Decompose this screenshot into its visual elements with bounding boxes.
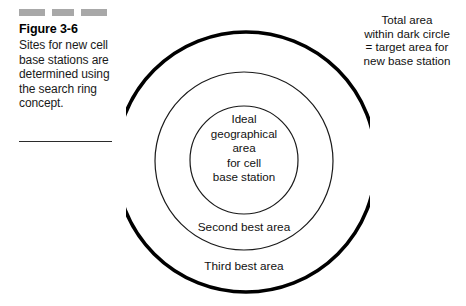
inner-label-line-2: geographical [186, 127, 302, 142]
decorative-mark-2 [52, 9, 74, 16]
inner-label-line-1: Ideal [186, 112, 302, 127]
caption-divider [19, 141, 112, 142]
figure-caption-block: Figure 3-6 Sites for new cell base stati… [19, 9, 119, 111]
decorative-mark-3 [81, 9, 107, 16]
figure-number: Figure 3-6 [19, 22, 119, 37]
inner-label-line-4: for cell [186, 156, 302, 171]
decorative-mark-1 [19, 9, 45, 16]
inner-label-line-3: area [186, 141, 302, 156]
outer-circle-label: Third best area [173, 259, 315, 273]
inner-circle-label: Ideal geographical area for cell base st… [186, 112, 302, 185]
inner-label-line-5: base station [186, 170, 302, 185]
middle-circle-label: Second best area [173, 220, 315, 234]
decorative-marks [19, 9, 119, 16]
figure-caption-text: Sites for new cell base stations are det… [19, 38, 119, 111]
